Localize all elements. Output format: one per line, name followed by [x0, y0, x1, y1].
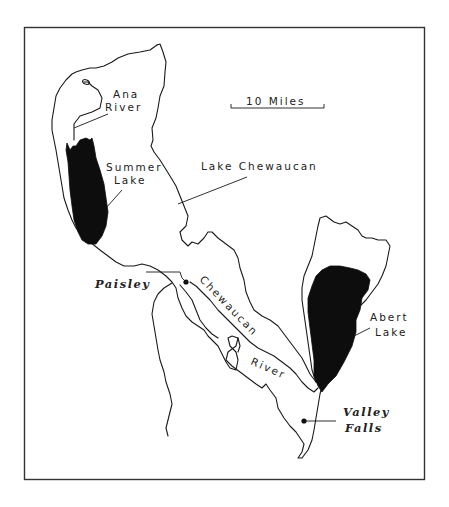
- abert-lake: [308, 266, 370, 392]
- chewaucan-river-label-2: River: [249, 355, 288, 381]
- ana-river: [74, 82, 102, 140]
- paisley-label: Paisley: [94, 277, 151, 291]
- western-tributary: [152, 283, 172, 436]
- lake-chewaucan-label: Lake Chewaucan: [201, 160, 318, 172]
- summer-lake: [66, 138, 108, 244]
- ana-river-label-2: River: [105, 101, 142, 113]
- lake-chewaucan-map: 10 Miles Ana River Summer Lake Lake Chew…: [0, 0, 449, 507]
- valley-falls-label-2: Falls: [344, 421, 383, 435]
- scale-bar-label: 10 Miles: [246, 95, 306, 107]
- abert-lake-label-2: Lake: [375, 326, 407, 338]
- lake-chewaucan-leader: [178, 177, 247, 204]
- paisley-leader: [146, 272, 186, 282]
- summer-lake-leader: [106, 190, 122, 208]
- summer-lake-label-2: Lake: [114, 174, 146, 186]
- ana-river-label-1: Ana: [113, 88, 139, 100]
- ana-river-leader: [74, 114, 108, 128]
- summer-lake-label-1: Summer: [106, 161, 163, 173]
- valley-falls-label-1: Valley: [343, 405, 390, 419]
- valley-falls-dot: [301, 418, 306, 423]
- paisley-dot: [183, 279, 188, 284]
- abert-lake-label-1: Abert: [370, 311, 409, 323]
